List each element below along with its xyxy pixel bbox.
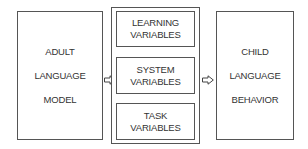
learning-variables-box: LEARNING VARIABLES (116, 11, 195, 47)
system-label: SYSTEM (137, 64, 175, 76)
language-label: LANGUAGE (229, 70, 280, 82)
variables-label: VARIABLES (130, 76, 180, 88)
variables-label: VARIABLES (130, 29, 180, 41)
adult-language-model-box: ADULT LANGUAGE MODEL (17, 11, 103, 140)
adult-label: ADULT (45, 46, 74, 58)
language-label: LANGUAGE (34, 70, 85, 82)
variables-label: VARIABLES (130, 122, 180, 134)
child-label: CHILD (241, 46, 269, 58)
behavior-label: BEHAVIOR (232, 94, 279, 106)
system-variables-box: SYSTEM VARIABLES (116, 57, 195, 94)
variables-group: LEARNING VARIABLES SYSTEM VARIABLES TASK… (111, 7, 200, 144)
task-variables-box: TASK VARIABLES (116, 103, 195, 140)
right-arrow-icon (202, 75, 214, 85)
learning-label: LEARNING (132, 17, 179, 29)
model-label: MODEL (44, 94, 77, 106)
task-label: TASK (144, 110, 167, 122)
child-language-behavior-box: CHILD LANGUAGE BEHAVIOR (216, 11, 294, 140)
